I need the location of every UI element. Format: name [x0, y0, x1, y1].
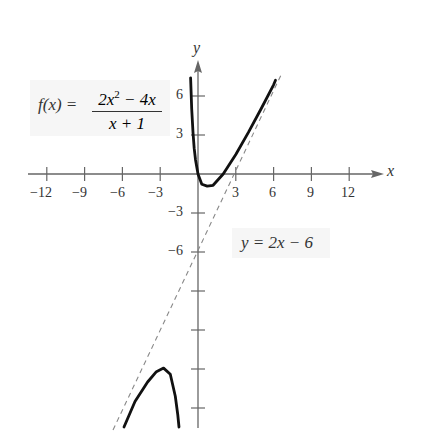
function-numerator: 2x2 − 4x — [98, 84, 156, 110]
x-tick-label: −12 — [30, 185, 52, 201]
y-tick-label: −6 — [168, 243, 183, 259]
x-tick-label: 9 — [307, 185, 314, 201]
x-tick-label: 6 — [269, 185, 276, 201]
curve-right-branch — [191, 78, 276, 186]
x-tick-label: 12 — [341, 185, 355, 201]
x-tick-label: −3 — [148, 185, 163, 201]
asymptote-label: y = 2x − 6 — [241, 233, 313, 253]
y-tick-label: −3 — [168, 204, 183, 220]
function-label-lhs: f(x) = — [38, 95, 77, 115]
x-tick-label: 3 — [232, 185, 239, 201]
x-axis-label: x — [387, 162, 394, 180]
x-tick-label: −9 — [72, 185, 87, 201]
x-tick-label: −6 — [110, 185, 125, 201]
y-axis-label: y — [193, 39, 200, 57]
y-tick-label: 6 — [176, 87, 183, 103]
curve-left-branch — [124, 368, 179, 427]
function-denominator: x + 1 — [109, 114, 145, 134]
fraction-bar — [92, 111, 162, 112]
function-label-fraction: 2x2 − 4x x + 1 — [92, 84, 162, 134]
y-tick-label: 3 — [176, 126, 183, 142]
plot-area — [0, 0, 425, 448]
